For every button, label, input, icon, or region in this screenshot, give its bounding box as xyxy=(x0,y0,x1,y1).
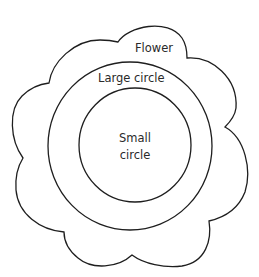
nested-shapes-diagram: Flower Large circle Small circle xyxy=(0,0,259,277)
large-circle-label: Large circle xyxy=(98,71,165,85)
small-circle-label-line2: circle xyxy=(120,148,151,162)
small-circle-shape xyxy=(79,88,191,202)
small-circle-label-line1: Small xyxy=(119,131,151,145)
diagram-canvas: Flower Large circle Small circle xyxy=(0,0,259,277)
large-circle-shape xyxy=(48,62,212,230)
flower-label: Flower xyxy=(135,41,173,55)
